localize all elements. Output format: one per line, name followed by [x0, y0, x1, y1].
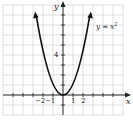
x-tick-label-2: 2 [81, 97, 85, 105]
y-axis-arrow-icon [61, 1, 66, 7]
parabola-chart: y x y = x2 −2 −1 1 2 4 [0, 0, 133, 122]
y-tick-label-4: 4 [54, 51, 59, 59]
y-axis [61, 5, 65, 115]
x-axis-label: x [126, 97, 131, 106]
y-axis-label: y [53, 2, 59, 11]
x-tick-label-1: 1 [71, 97, 75, 105]
x-tick-label-m2: −2 [35, 97, 45, 105]
x-tick-label-m1: −1 [45, 97, 55, 105]
curve-equation-label: y = x2 [95, 21, 117, 31]
